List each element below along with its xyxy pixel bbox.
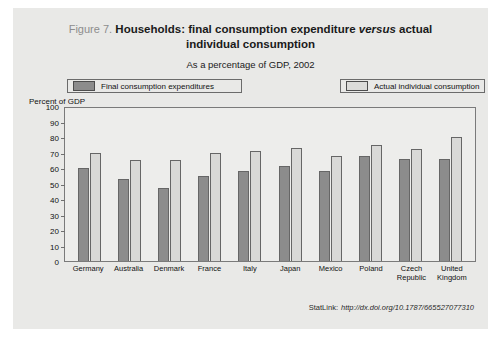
- figure-title: Figure 7. Households: final consumption …: [13, 22, 488, 52]
- legend-label-actual-consumption: Actual individual consumption: [374, 82, 479, 91]
- bar-actual-consumption: [170, 160, 181, 261]
- x-axis-labels: GermanyAustraliaDenmarkFranceItalyJapanM…: [64, 264, 476, 282]
- figure-header: Figure 7. Households: final consumption …: [13, 8, 488, 70]
- bar-final-consumption: [439, 159, 450, 261]
- figure-page: Figure 7. Households: final consumption …: [13, 8, 488, 329]
- bar-group: [350, 108, 390, 261]
- chart-legend: Final consumption expenditures Actual in…: [13, 79, 488, 95]
- y-axis-tick-mark: [61, 247, 65, 248]
- y-axis-tick-mark: [61, 185, 65, 186]
- bar-final-consumption: [78, 168, 89, 261]
- figure-number: Figure 7.: [69, 23, 112, 35]
- y-axis-tick-mark: [61, 231, 65, 232]
- x-axis-tick-label: Denmark: [149, 264, 189, 282]
- y-axis-tick-label: 40: [50, 196, 59, 205]
- bar-actual-consumption: [90, 153, 101, 262]
- legend-item-actual-consumption: Actual individual consumption: [340, 79, 485, 93]
- bar-actual-consumption: [411, 149, 422, 261]
- y-axis-tick-label: 0: [55, 258, 59, 267]
- bar-actual-consumption: [250, 151, 261, 261]
- x-axis-tick-label: Italy: [230, 264, 270, 282]
- chart-plot-wrapper: 0102030405060708090100 GermanyAustraliaD…: [13, 107, 488, 277]
- y-axis-tick-mark: [61, 123, 65, 124]
- legend-swatch-final-consumption: [73, 81, 95, 91]
- x-axis-tick-label: Australia: [108, 264, 148, 282]
- legend-swatch-actual-consumption: [346, 81, 368, 91]
- y-axis-tick-label: 30: [50, 211, 59, 220]
- x-axis-tick-label: Germany: [68, 264, 108, 282]
- bar-final-consumption: [319, 171, 330, 261]
- y-axis-tick-label: 100: [46, 103, 59, 112]
- bar-final-consumption: [359, 156, 370, 261]
- bar-group: [230, 108, 270, 261]
- figure-title-text: Households: final consumption expenditur…: [115, 23, 432, 50]
- legend-label-final-consumption: Final consumption expenditures: [101, 82, 214, 91]
- bar-actual-consumption: [331, 156, 342, 261]
- figure-subtitle: As a percentage of GDP, 2002: [13, 59, 488, 70]
- y-axis-tick-label: 70: [50, 149, 59, 158]
- x-axis-tick-label: Mexico: [310, 264, 350, 282]
- y-axis-labels: 0102030405060708090100: [35, 107, 59, 262]
- bar-groups: [65, 108, 475, 261]
- y-axis-tick-mark: [61, 138, 65, 139]
- y-axis-tick-label: 20: [50, 227, 59, 236]
- bar-final-consumption: [238, 171, 249, 261]
- legend-item-final-consumption: Final consumption expenditures: [67, 79, 242, 93]
- y-axis-tick-label: 80: [50, 134, 59, 143]
- bar-group: [190, 108, 230, 261]
- bar-actual-consumption: [451, 137, 462, 261]
- y-axis-tick-label: 10: [50, 242, 59, 251]
- y-axis-tick-label: 60: [50, 165, 59, 174]
- y-axis-unit-label: Percent of GDP: [29, 97, 488, 106]
- bar-group: [310, 108, 350, 261]
- y-axis-tick-mark: [61, 154, 65, 155]
- bar-actual-consumption: [291, 148, 302, 261]
- bar-group: [149, 108, 189, 261]
- statlink: StatLink:http://dx.doi.org/10.1787/66552…: [309, 303, 474, 312]
- y-axis-tick-mark: [61, 169, 65, 170]
- x-axis-tick-label: Japan: [270, 264, 310, 282]
- x-axis-tick-label: UnitedKingdom: [432, 264, 472, 282]
- bar-group: [109, 108, 149, 261]
- bar-group: [69, 108, 109, 261]
- y-axis-tick-label: 90: [50, 118, 59, 127]
- bar-actual-consumption: [371, 145, 382, 261]
- bar-actual-consumption: [130, 160, 141, 261]
- y-axis-tick-mark: [61, 216, 65, 217]
- bar-final-consumption: [118, 179, 129, 261]
- bar-actual-consumption: [210, 153, 221, 262]
- x-axis-tick-label: France: [189, 264, 229, 282]
- chart-plot-area: [64, 107, 476, 262]
- bar-group: [270, 108, 310, 261]
- bar-final-consumption: [399, 159, 410, 261]
- statlink-url[interactable]: http://dx.doi.org/10.1787/665527077310: [341, 303, 474, 312]
- figure-title-part1: Households: final consumption expenditur…: [115, 23, 358, 35]
- bar-group: [391, 108, 431, 261]
- bar-group: [431, 108, 471, 261]
- x-axis-tick-label: CzechRepublic: [391, 264, 431, 282]
- bar-final-consumption: [279, 166, 290, 261]
- y-axis-tick-label: 50: [50, 180, 59, 189]
- statlink-label: StatLink:: [309, 303, 338, 312]
- bar-final-consumption: [198, 176, 209, 261]
- x-axis-tick-label: Poland: [351, 264, 391, 282]
- figure-title-emphasis: versus: [359, 23, 396, 35]
- bar-final-consumption: [158, 188, 169, 261]
- y-axis-tick-mark: [61, 200, 65, 201]
